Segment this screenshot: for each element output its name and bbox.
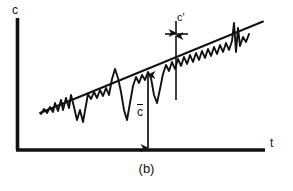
mean-trend-line — [40, 22, 263, 114]
x-axis-label: t — [270, 137, 273, 149]
fluctuation-label: c' — [177, 12, 185, 23]
instantaneous-signal-trace — [41, 23, 249, 122]
mean-value-label: c — [137, 106, 143, 118]
figure-caption: (b) — [0, 161, 293, 176]
y-axis-label: c — [12, 4, 18, 16]
figure-turbulence-unsteady-mean: c t c' c (b) — [0, 0, 293, 191]
mean-value-label-text: c — [137, 106, 143, 118]
